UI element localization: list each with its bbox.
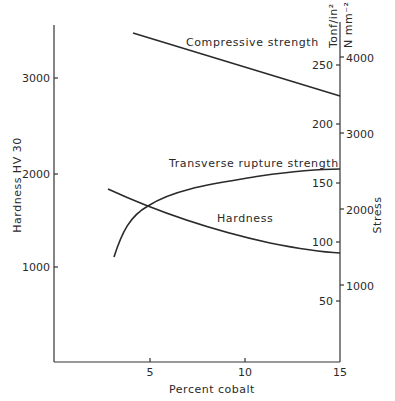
- x-tick-10: 10: [238, 366, 252, 379]
- left-y-ticks: 3000 2000 1000: [22, 72, 58, 274]
- nmm-tick-2000: 2000: [346, 204, 374, 217]
- x-tick-15: 15: [333, 366, 347, 379]
- right-nmm-ticks: 4000 3000 2000 1000: [340, 52, 374, 293]
- nmm-unit-label: N mm⁻²: [342, 2, 355, 48]
- nmm-tick-3000: 3000: [346, 128, 374, 141]
- x-ticks: 5 10 15: [147, 358, 348, 379]
- nmm-tick-4000: 4000: [346, 52, 374, 65]
- transverse-rupture-label: Transverse rupture strength: [168, 157, 339, 170]
- chart-canvas: 3000 2000 1000 5 10 15 250 200 150 100 5…: [0, 0, 395, 401]
- tonf-tick-200: 200: [312, 118, 333, 131]
- left-tick-2000: 2000: [22, 168, 50, 181]
- left-tick-1000: 1000: [22, 261, 50, 274]
- tonf-tick-250: 250: [312, 59, 333, 72]
- tonf-tick-100: 100: [312, 236, 333, 249]
- compressive-strength-label: Compressive strength: [186, 36, 319, 49]
- right-tonf-ticks: 250 200 150 100 50: [312, 59, 340, 308]
- x-tick-5: 5: [147, 366, 154, 379]
- tonf-tick-150: 150: [312, 177, 333, 190]
- right-y-axis-title: Stress: [371, 197, 384, 234]
- hardness-label: Hardness: [217, 212, 273, 225]
- x-axis-title: Percent cobalt: [169, 383, 255, 396]
- left-tick-3000: 3000: [22, 72, 50, 85]
- nmm-tick-1000: 1000: [346, 280, 374, 293]
- tonf-unit-label: Tonf/in²: [327, 3, 340, 49]
- tonf-tick-50: 50: [319, 295, 333, 308]
- left-y-axis-title: Hardness HV 30: [11, 137, 24, 232]
